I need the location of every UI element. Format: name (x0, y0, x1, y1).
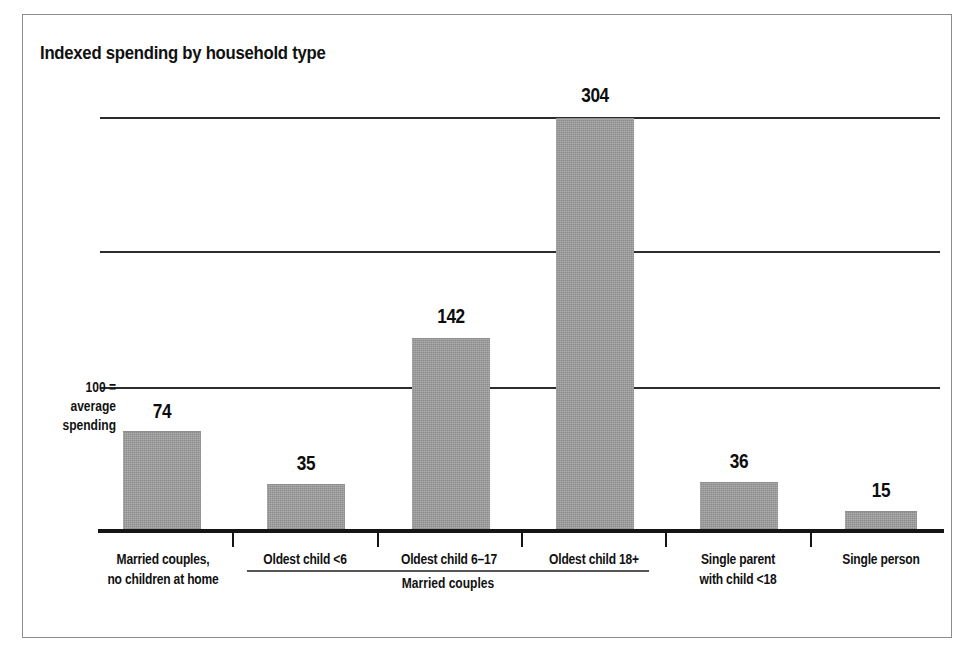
axis-tick (665, 531, 667, 547)
category-label-line: Married couples, (90, 549, 236, 569)
gridline-300 (100, 117, 940, 119)
axis-note: 100 = average spending (49, 378, 116, 435)
axis-note-line-1: 100 = (49, 378, 116, 397)
category-label-line: with child <18 (675, 569, 801, 589)
category-label-single-person: Single person (818, 549, 944, 569)
axis-tick (810, 531, 812, 547)
bar-oldest-child-18-plus (556, 118, 634, 532)
chart-figure: Indexed spending by household type 100 =… (0, 0, 974, 663)
category-label-single-parent: Single parent with child <18 (675, 549, 801, 589)
bar-value-label: 304 (561, 84, 628, 107)
bar-married-couples-no-children (123, 431, 201, 532)
bar-value-label: 35 (272, 452, 339, 475)
bar-value-label: 15 (850, 479, 912, 502)
group-label-married-couples: Married couples (275, 575, 621, 591)
category-label-line: no children at home (90, 569, 236, 589)
group-bracket-line (247, 570, 649, 572)
category-label-married-couples-no-children: Married couples, no children at home (90, 549, 236, 589)
axis-note-line-2: average (49, 397, 116, 416)
axis-tick (232, 531, 234, 547)
axis-tick (377, 531, 379, 547)
axis-tick (521, 531, 523, 547)
category-label-line: Oldest child <6 (242, 549, 368, 569)
bar-value-label: 74 (128, 400, 195, 423)
plot-area: 100 = average spending 74 35 142 304 36 … (0, 0, 974, 663)
bar-oldest-child-6-17 (412, 338, 490, 532)
category-label-line: Oldest child 18+ (531, 549, 657, 569)
bar-oldest-child-under-6 (267, 484, 345, 532)
bar-value-label: 36 (705, 450, 772, 473)
gridline-100-tick (120, 387, 150, 389)
category-label-oldest-child-under-6: Oldest child <6 (242, 549, 368, 569)
gridline-100 (100, 387, 940, 389)
bar-value-label: 142 (417, 305, 484, 328)
category-label-line: Oldest child 6–17 (386, 549, 512, 569)
axis-note-line-3: spending (49, 416, 116, 435)
category-label-line: Single person (818, 549, 944, 569)
bar-single-parent-child-under-18 (700, 482, 778, 532)
category-label-oldest-child-18-plus: Oldest child 18+ (531, 549, 657, 569)
gridline-200 (100, 251, 940, 253)
category-label-line: Single parent (675, 549, 801, 569)
category-label-oldest-child-6-17: Oldest child 6–17 (386, 549, 512, 569)
